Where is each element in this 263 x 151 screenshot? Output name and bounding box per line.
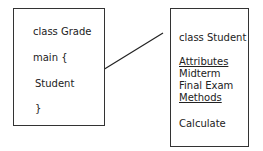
attribute-final-exam: Final Exam: [179, 80, 233, 91]
class-student-box: class Student Attributes Midterm Final E…: [170, 8, 249, 147]
attribute-midterm: Midterm: [179, 68, 221, 79]
class-grade-box: class Grade main { Student }: [13, 8, 105, 126]
method-calculate: Calculate: [179, 118, 226, 129]
class-grade-title: class Grade: [33, 26, 92, 37]
methods-label: Methods: [179, 92, 222, 103]
student-reference: Student: [35, 78, 74, 89]
attributes-label: Attributes: [179, 56, 228, 67]
main-open: main {: [33, 52, 68, 63]
main-close: }: [35, 103, 41, 114]
class-student-title: class Student: [179, 32, 246, 43]
